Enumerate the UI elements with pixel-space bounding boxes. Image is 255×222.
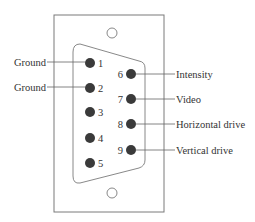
- pin-1: 1 Ground: [14, 57, 103, 69]
- pin-3: 3: [85, 107, 103, 118]
- pin-dot-icon: [126, 119, 136, 129]
- pin-number: 3: [98, 107, 103, 118]
- pin-2: 2 Ground: [14, 82, 103, 94]
- top-mounting-hole-icon: [107, 28, 117, 38]
- pin-9: 9 Vertical drive: [118, 145, 233, 156]
- pin-number: 5: [98, 158, 103, 169]
- pin-dot-icon: [85, 107, 95, 117]
- d-sub-shell: [73, 44, 145, 183]
- pin-4: 4: [85, 133, 104, 144]
- pin-number: 4: [98, 133, 104, 144]
- pin-5: 5: [85, 158, 103, 169]
- pin-number: 2: [98, 83, 103, 94]
- mounting-plate: [54, 15, 164, 212]
- pin-label: Vertical drive: [176, 145, 233, 156]
- pin-label: Intensity: [176, 69, 213, 80]
- pin-dot-icon: [85, 158, 95, 168]
- pin-dot-icon: [126, 69, 136, 79]
- pin-dot-icon: [85, 58, 95, 68]
- pin-7: 7 Video: [118, 94, 201, 105]
- pin-label: Ground: [14, 57, 47, 68]
- pin-dot-icon: [85, 133, 95, 143]
- pin-number: 1: [98, 58, 103, 69]
- pin-8: 8 Horizontal drive: [118, 119, 246, 130]
- pin-label: Horizontal drive: [176, 119, 245, 130]
- pin-number: 6: [118, 69, 123, 80]
- pin-label: Video: [176, 94, 201, 105]
- pin-dot-icon: [85, 83, 95, 93]
- pin-number: 9: [118, 145, 123, 156]
- pin-number: 7: [118, 94, 123, 105]
- pin-6: 6 Intensity: [118, 69, 214, 80]
- bottom-mounting-hole-icon: [107, 188, 117, 198]
- connector-diagram: 1 Ground 2 Ground 3 4 5 6 Intensity 7 Vi…: [0, 0, 255, 222]
- pin-dot-icon: [126, 94, 136, 104]
- pin-dot-icon: [126, 145, 136, 155]
- pin-number: 8: [118, 119, 123, 130]
- pin-label: Ground: [14, 82, 47, 93]
